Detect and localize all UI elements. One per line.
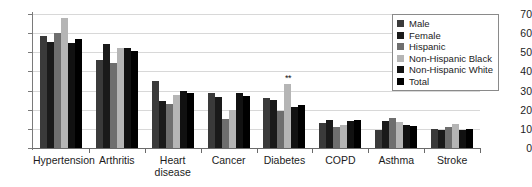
bar-slot <box>159 14 166 148</box>
bar[interactable] <box>54 33 61 148</box>
x-axis-tick-mark <box>145 148 146 153</box>
bar-slot <box>40 14 47 148</box>
bar-slot <box>270 14 277 148</box>
bar[interactable] <box>229 110 236 148</box>
legend: MaleFemaleHispanicNon-Hispanic BlackNon-… <box>392 14 499 91</box>
x-axis-tick-mark <box>424 148 425 153</box>
legend-item[interactable]: Hispanic <box>397 41 493 53</box>
bar[interactable] <box>75 39 82 148</box>
x-axis-tick-label: COPD <box>312 155 368 167</box>
bar-group <box>201 14 257 148</box>
bar[interactable] <box>382 121 389 148</box>
y-axis-tick-label: 20 <box>506 104 532 115</box>
bar-group <box>33 14 89 148</box>
legend-swatch-icon <box>397 43 404 50</box>
bar[interactable] <box>403 125 410 148</box>
bar-slot <box>152 14 159 148</box>
bar[interactable] <box>340 125 347 148</box>
bar-slot <box>54 14 61 148</box>
x-axis-tick-mark <box>201 148 202 153</box>
bar-chart: 010203040506070 ** HypertensionArthritis… <box>0 0 532 187</box>
bar[interactable] <box>410 126 417 148</box>
bar-slot <box>263 14 270 148</box>
bar[interactable] <box>445 127 452 148</box>
bar[interactable] <box>270 100 277 148</box>
bar[interactable] <box>61 18 68 148</box>
y-axis-tick-label: 70 <box>506 9 532 20</box>
bar-slot <box>110 14 117 148</box>
bar[interactable] <box>452 124 459 148</box>
bar[interactable] <box>284 84 291 148</box>
bar-slot <box>375 14 382 148</box>
bar[interactable] <box>222 119 229 148</box>
bar[interactable] <box>131 51 138 148</box>
bar[interactable] <box>459 130 466 148</box>
bar[interactable] <box>187 93 194 149</box>
x-axis-tick-label: Stroke <box>424 155 480 167</box>
bar[interactable] <box>68 43 75 148</box>
bar[interactable] <box>438 130 445 148</box>
x-axis-tick-label: Arthritis <box>89 155 145 167</box>
legend-item-label: Non-Hispanic White <box>409 65 493 75</box>
bar[interactable] <box>215 97 222 148</box>
y-axis-tick-label: 60 <box>506 28 532 39</box>
bar[interactable] <box>110 63 117 148</box>
bar[interactable] <box>96 60 103 148</box>
bar[interactable] <box>291 107 298 148</box>
bar[interactable] <box>263 98 270 148</box>
bar[interactable] <box>103 44 110 148</box>
bar[interactable] <box>40 36 47 148</box>
legend-item[interactable]: Total <box>397 76 493 88</box>
bar[interactable] <box>431 129 438 148</box>
legend-item-label: Hispanic <box>409 42 445 52</box>
bar[interactable] <box>152 81 159 148</box>
bar-slot <box>103 14 110 148</box>
bar[interactable] <box>124 48 131 148</box>
bar[interactable] <box>166 104 173 148</box>
legend-item[interactable]: Male <box>397 18 493 30</box>
bar[interactable] <box>47 42 54 148</box>
bar[interactable] <box>333 127 340 148</box>
bar[interactable] <box>159 101 166 148</box>
bar[interactable] <box>298 105 305 148</box>
bar[interactable] <box>277 111 284 148</box>
bar[interactable] <box>389 118 396 148</box>
bar-slot: ** <box>284 14 291 148</box>
bar-slot <box>173 14 180 148</box>
bar-slot <box>68 14 75 148</box>
y-axis-tick-mark <box>28 148 33 149</box>
x-axis-tick-mark <box>480 148 481 153</box>
bar-slot <box>298 14 305 148</box>
bar[interactable] <box>347 121 354 148</box>
legend-item[interactable]: Non-Hispanic Black <box>397 53 493 65</box>
legend-item[interactable]: Non-Hispanic White <box>397 64 493 76</box>
x-axis-tick-label: Cancer <box>201 155 257 167</box>
bar[interactable] <box>173 95 180 148</box>
x-axis-tick-mark <box>89 148 90 153</box>
x-axis-tick-label: Asthma <box>368 155 424 167</box>
bar-slot <box>47 14 54 148</box>
bar[interactable] <box>466 129 473 148</box>
bar[interactable] <box>208 93 215 149</box>
bar[interactable] <box>236 93 243 148</box>
legend-item-label: Non-Hispanic Black <box>409 54 492 64</box>
bar[interactable] <box>319 123 326 148</box>
bar[interactable] <box>354 120 361 148</box>
legend-item[interactable]: Female <box>397 30 493 42</box>
bar-slot <box>131 14 138 148</box>
bar[interactable] <box>180 91 187 148</box>
bar[interactable] <box>375 130 382 148</box>
bar-group <box>312 14 368 148</box>
bar-group <box>145 14 201 148</box>
bar[interactable] <box>117 48 124 148</box>
bar-slot <box>187 14 194 148</box>
legend-item-label: Male <box>409 19 430 29</box>
bar-slot <box>319 14 326 148</box>
bar[interactable] <box>243 96 250 148</box>
bar-slot <box>180 14 187 148</box>
bar[interactable] <box>396 122 403 148</box>
bar-annotation: ** <box>285 74 291 83</box>
x-axis-tick-label: Hypertension <box>33 155 89 167</box>
bar-slot <box>236 14 243 148</box>
bar[interactable] <box>326 120 333 148</box>
